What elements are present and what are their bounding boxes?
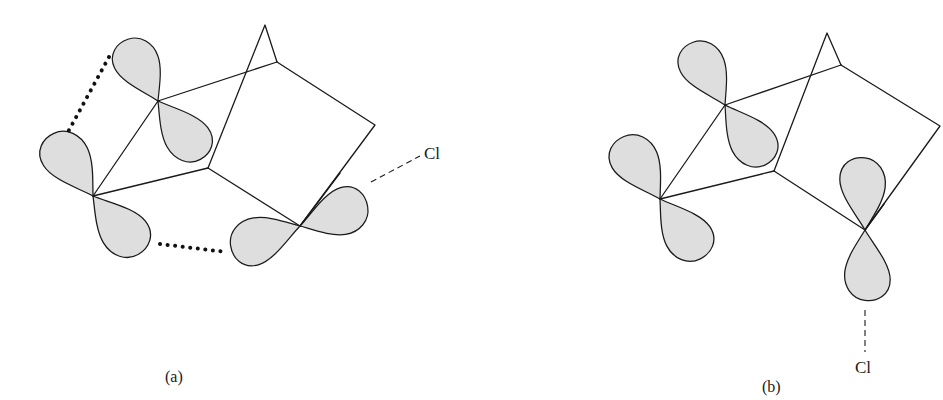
panel-b: Cl (b)	[601, 33, 940, 396]
bond	[208, 25, 277, 168]
bond	[93, 101, 158, 196]
chlorine-label-a: Cl	[424, 144, 440, 163]
bond	[93, 168, 208, 196]
overlap-dots-lower	[160, 244, 226, 252]
bond	[774, 33, 841, 171]
bond	[725, 65, 841, 105]
panel-a: Cl (a)	[32, 25, 441, 386]
caption-b: (b)	[762, 378, 781, 396]
chlorine-label-b: Cl	[855, 358, 871, 377]
caption-a: (a)	[165, 368, 183, 386]
p-orbital-c1	[671, 33, 786, 176]
p-orbital-c1	[106, 30, 221, 171]
p-orbital-c4	[225, 182, 374, 271]
p-orbital-c2	[32, 122, 159, 267]
overlap-dots-upper	[68, 57, 109, 132]
c-cl-bond-a	[371, 156, 420, 182]
orbital-diagram-figure: Cl (a) Cl (b)	[0, 0, 943, 400]
bond	[158, 62, 277, 101]
